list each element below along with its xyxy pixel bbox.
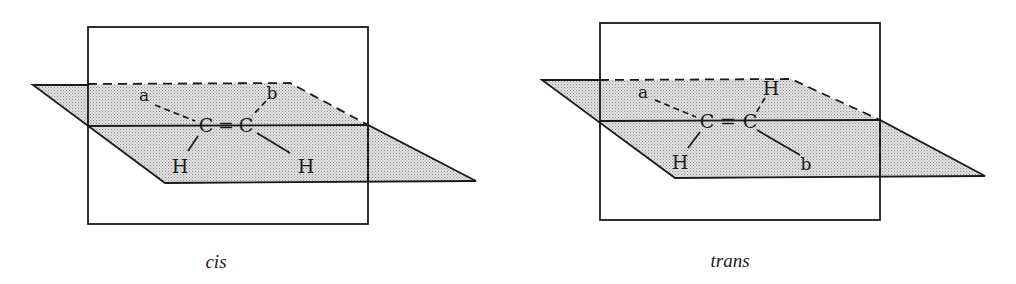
cis-hydrogen-right: H (298, 155, 315, 177)
cis-double-bond: = (218, 114, 234, 136)
trans-panel: C = C a H H b trans (542, 23, 985, 271)
cis-substituent-b: b (267, 83, 278, 103)
trans-hydrogen-top: H (763, 77, 780, 99)
cis-substituent-a: a (139, 85, 149, 105)
trans-substituent-b: b (801, 154, 812, 174)
trans-carbon-right: C (743, 110, 758, 132)
trans-substituent-a: a (638, 82, 648, 102)
cis-trans-isomer-diagram: C = C a b H H cis C = C a H H b trans (0, 0, 1016, 284)
cis-hydrogen-left: H (172, 155, 189, 177)
trans-double-bond: = (720, 110, 736, 132)
cis-caption: cis (205, 251, 226, 272)
trans-hydrogen-bottom: H (672, 151, 689, 173)
trans-caption: trans (710, 250, 749, 271)
cis-carbon-right: C (239, 114, 254, 136)
cis-molecular-plane (33, 83, 476, 183)
cis-carbon-left: C (199, 114, 214, 136)
cis-panel: C = C a b H H cis (33, 27, 476, 272)
trans-carbon-left: C (700, 110, 715, 132)
